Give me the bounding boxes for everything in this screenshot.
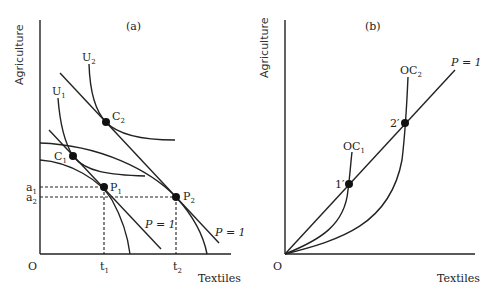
price-line-b [285, 70, 455, 254]
price-label-b: P = 1 [450, 56, 482, 69]
point-p2 [172, 193, 180, 201]
panel-a [40, 20, 231, 254]
point-1-prime [345, 180, 353, 188]
offer-curve-oc1 [285, 152, 352, 254]
indifference-curve-u1 [58, 98, 145, 176]
tick-t2: t2 [173, 260, 182, 275]
label-u1: U1 [52, 85, 66, 100]
panel-b-origin-label: O [273, 260, 282, 273]
panel-b-title: (b) [365, 20, 381, 33]
label-c2: C2 [112, 110, 125, 125]
point-c2 [102, 118, 110, 126]
offer-curve-oc2 [285, 77, 408, 254]
label-1-prime: 1′ [335, 178, 345, 191]
trade-equilibrium-diagram: (a) Agriculture Textiles O U2 U1 C2 C1 P… [0, 0, 489, 299]
label-c1: C1 [54, 150, 67, 165]
label-oc1: OC1 [343, 140, 365, 155]
point-c1 [69, 152, 77, 160]
label-p2: P2 [183, 190, 195, 205]
label-p1: P1 [110, 181, 122, 196]
panel-a-origin-label: O [28, 260, 37, 273]
point-p1 [100, 183, 108, 191]
label-oc2: OC2 [400, 64, 422, 79]
label-u2: U2 [82, 51, 96, 66]
price-label-2: P = 1 [214, 226, 246, 239]
panel-b-x-axis-label: Textiles [437, 272, 480, 285]
label-2-prime: 2′ [390, 117, 400, 130]
indifference-curve-u2 [89, 64, 175, 140]
panel-a-title: (a) [126, 20, 141, 33]
panel-a-x-axis-label: Textiles [198, 272, 241, 285]
panel-a-y-axis-label: Agriculture [13, 24, 26, 85]
price-label-1: P = 1 [144, 218, 176, 231]
point-2-prime [401, 119, 409, 127]
price-line-2 [60, 73, 219, 243]
panel-b-y-axis-label: Agriculture [258, 17, 271, 78]
panel-b [285, 20, 475, 254]
tick-t1: t1 [100, 260, 109, 275]
